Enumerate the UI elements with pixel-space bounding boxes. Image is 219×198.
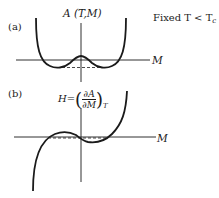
panel-a-x-axis-label: M (152, 54, 163, 66)
left-paren: ( (75, 89, 82, 110)
diagram-canvas (0, 0, 219, 198)
fraction-denominator: ∂M (82, 100, 96, 110)
partial-fraction: ∂A∂M (82, 89, 96, 110)
right-paren: ) (96, 89, 103, 110)
panel-b-y-axis-label: H=(∂A∂M)T (58, 89, 108, 110)
condition-label: Fixed T < Tc (153, 12, 216, 25)
panel-b-label: (b) (8, 88, 22, 99)
fraction-numerator: ∂A (82, 89, 96, 100)
panel-a-label: (a) (8, 21, 22, 32)
fraction-subscript: T (103, 102, 108, 110)
condition-subscript: c (212, 17, 216, 25)
condition-text: Fixed T < T (153, 12, 212, 23)
h-equals: H= (58, 93, 75, 104)
panel-b-x-axis-label: M (157, 132, 168, 144)
panel-a-y-axis-label: A (T,M) (63, 7, 102, 19)
